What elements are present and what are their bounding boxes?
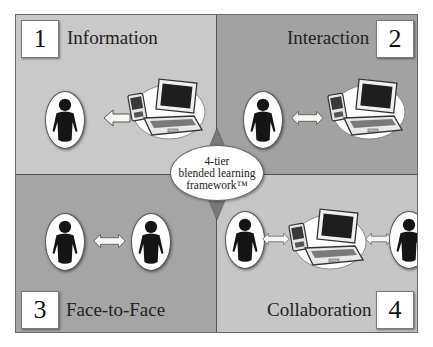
person-icon xyxy=(389,211,418,269)
double-arrow-icon xyxy=(291,109,324,127)
laptop-pda-icon xyxy=(124,78,206,140)
person-icon xyxy=(45,91,85,149)
quadrant-number-2: 2 xyxy=(376,20,414,58)
quadrant-number-4: 4 xyxy=(376,291,414,329)
quadrant-label-face-to-face: Face-to-Face xyxy=(66,299,165,321)
double-arrow-icon xyxy=(93,232,126,250)
person-icon xyxy=(131,213,171,271)
quadrant-label-interaction: Interaction xyxy=(287,27,369,49)
center-label-bubble: 4-tier blended learning framework™ xyxy=(170,145,264,201)
quadrant-label-information: Information xyxy=(67,27,158,49)
laptop-pda-icon xyxy=(285,208,367,270)
center-label-line-2: blended learning xyxy=(179,167,256,179)
center-label-line-3: framework™ xyxy=(186,179,248,191)
laptop-pda-icon xyxy=(324,78,406,140)
quadrant-number-1: 1 xyxy=(21,20,59,58)
person-icon xyxy=(45,213,85,271)
quadrant-label-collaboration: Collaboration xyxy=(267,299,371,321)
quadrant-face-to-face: 3 Face-to-Face xyxy=(16,175,217,333)
center-label-line-1: 4-tier xyxy=(205,155,230,167)
quadrant-number-3: 3 xyxy=(21,291,59,329)
quadrant-collaboration: Collaboration 4 xyxy=(217,175,418,333)
person-icon xyxy=(243,91,283,149)
